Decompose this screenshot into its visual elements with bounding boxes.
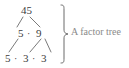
edge-9-to-3a (30, 39, 41, 52)
node-level3-second-3: 3 (23, 53, 29, 64)
edge-9-to-3b (45, 39, 51, 52)
operator-dot-level3-1: · (14, 54, 17, 64)
curly-brace-icon (59, 4, 71, 64)
edge-45-to-9 (30, 17, 40, 27)
node-level3-third-3: 3 (41, 53, 47, 64)
figure-caption: A factor tree (71, 26, 121, 38)
node-root-45: 45 (21, 5, 32, 16)
node-level3-first-5: 5 (5, 53, 11, 64)
edge-45-to-5 (17, 17, 23, 27)
node-level2-right-9: 9 (36, 28, 42, 39)
node-level2-left-5: 5 (18, 28, 24, 39)
edge-5-to-5 (9, 39, 18, 52)
operator-dot-level3-2: · (32, 54, 35, 64)
operator-dot-level2: · (27, 29, 30, 39)
factor-tree-figure: 45 5 · 9 5 · 3 · 3 A factor tree (0, 0, 129, 68)
